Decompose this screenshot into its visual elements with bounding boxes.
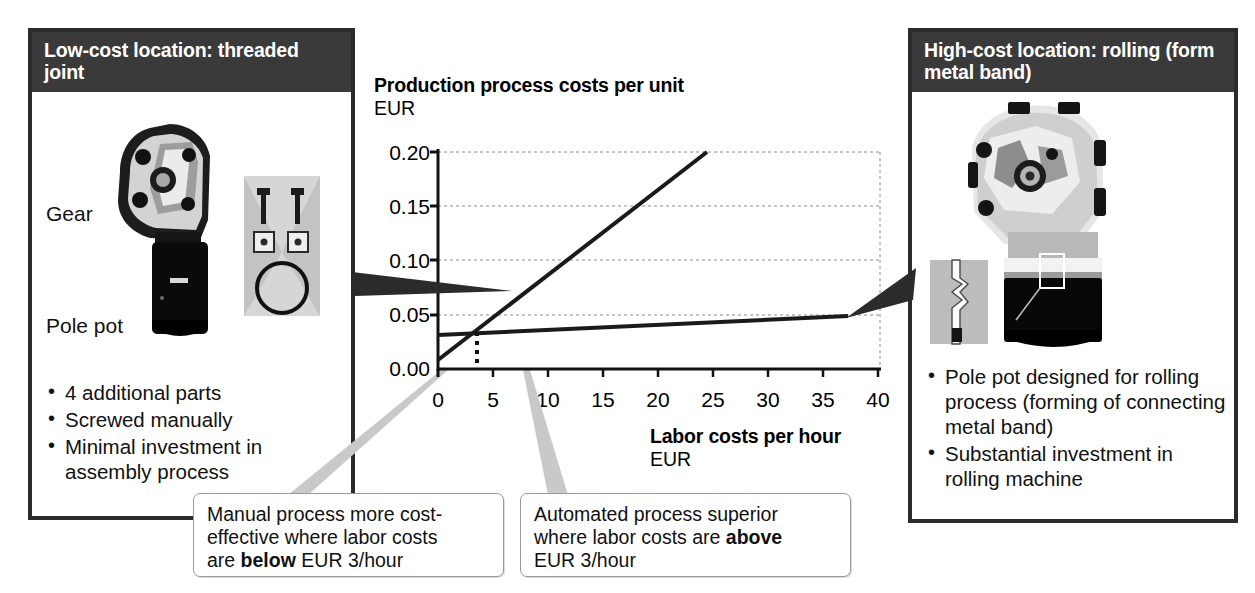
left-panel-pointer bbox=[352, 272, 512, 296]
manual-callout-line2: effective where labor costs bbox=[207, 526, 491, 549]
chart-axes bbox=[430, 149, 881, 377]
automated-callout-line2: where labor costs are above bbox=[534, 526, 838, 549]
manual-callout: Manual process more cost- effective wher… bbox=[193, 493, 504, 577]
automated-callout-line1: Automated process superior bbox=[534, 503, 838, 526]
manual-callout-emphasis: below bbox=[241, 549, 296, 571]
series-manual-line bbox=[438, 316, 848, 335]
manual-callout-line1: Manual process more cost- bbox=[207, 503, 491, 526]
infographic-canvas: Low-cost location: threaded joint bbox=[0, 0, 1255, 593]
manual-callout-line3-post: EUR 3/hour bbox=[296, 549, 403, 571]
connector-automated bbox=[523, 370, 568, 495]
chart-gridlines bbox=[438, 152, 880, 369]
manual-callout-line3: are below EUR 3/hour bbox=[207, 549, 491, 572]
manual-callout-line3-pre: are bbox=[207, 549, 241, 571]
automated-callout-line3: EUR 3/hour bbox=[534, 549, 838, 572]
automated-callout-emphasis: above bbox=[726, 526, 782, 548]
automated-callout: Automated process superior where labor c… bbox=[520, 493, 851, 577]
automated-callout-line2-pre: where labor costs are bbox=[534, 526, 726, 548]
right-panel-pointer bbox=[846, 268, 916, 318]
connector-manual bbox=[288, 370, 448, 495]
